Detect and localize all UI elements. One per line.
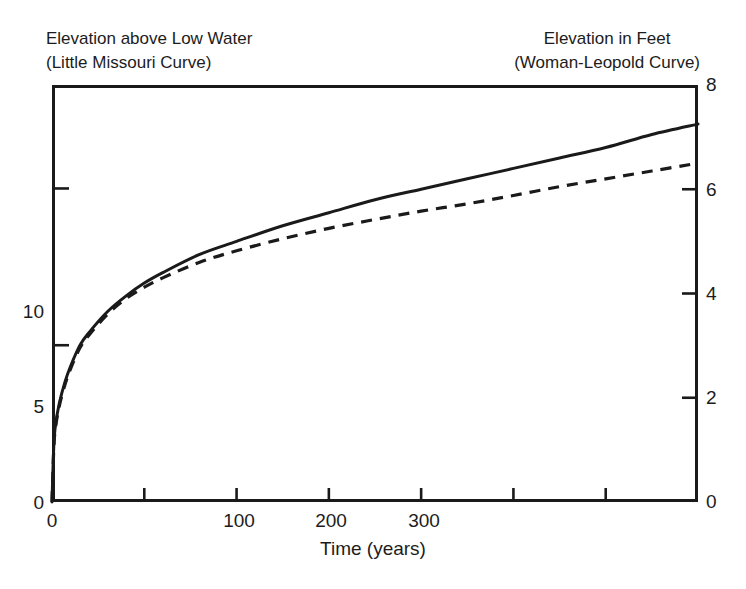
x-tick-200: 200 — [301, 510, 361, 532]
axis-ticks — [53, 188, 697, 501]
x-tick-300: 300 — [394, 510, 454, 532]
y-right-tick-0: 0 — [706, 491, 740, 513]
x-axis-title: Time (years) — [0, 538, 746, 560]
curve-woman-leopold — [52, 163, 698, 502]
y-right-tick-4: 4 — [706, 283, 740, 305]
x-tick-0: 0 — [22, 510, 82, 532]
curve-little-missouri — [52, 124, 698, 502]
y-right-tick-8: 8 — [706, 74, 740, 96]
data-curves — [52, 124, 698, 502]
y-left-tick-5: 5 — [4, 396, 44, 418]
chart-figure: Elevation above Low Water (Little Missou… — [0, 0, 746, 589]
x-tick-100: 100 — [209, 510, 269, 532]
y-right-tick-2: 2 — [706, 387, 740, 409]
y-left-tick-10: 10 — [4, 301, 44, 323]
plot-canvas — [0, 0, 746, 589]
y-right-tick-6: 6 — [706, 179, 740, 201]
